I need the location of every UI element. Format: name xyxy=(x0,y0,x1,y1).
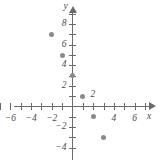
y-tick xyxy=(69,24,76,25)
data-point xyxy=(80,94,85,99)
point-annotation: 2 xyxy=(91,89,96,99)
x-tick-label: −4 xyxy=(20,113,42,123)
y-tick xyxy=(69,137,76,138)
x-tick-label: −6 xyxy=(0,113,21,123)
y-tick xyxy=(69,65,76,66)
data-point xyxy=(60,53,65,58)
y-tick xyxy=(69,34,76,35)
data-point xyxy=(91,114,96,119)
x-axis-label: x xyxy=(147,111,151,121)
data-point xyxy=(101,135,106,140)
y-tick xyxy=(69,148,76,149)
y-tick xyxy=(69,45,76,46)
y-tick xyxy=(69,55,76,56)
y-axis-label: y xyxy=(64,1,68,11)
y-tick-label: −2 xyxy=(45,121,67,131)
x-tick xyxy=(21,103,22,110)
x-tick xyxy=(31,103,32,110)
y-tick xyxy=(69,127,76,128)
y-tick-label: 6 xyxy=(45,39,67,49)
x-tick xyxy=(135,103,136,110)
x-tick xyxy=(83,103,84,110)
x-axis-arrow-icon xyxy=(149,102,156,110)
x-tick xyxy=(10,103,11,110)
x-tick xyxy=(124,103,125,110)
x-tick xyxy=(104,103,105,110)
x-tick xyxy=(114,103,115,110)
x-tick xyxy=(62,103,63,110)
data-point xyxy=(49,32,54,37)
x-tick-label: 4 xyxy=(103,113,125,123)
y-axis-arrow-icon xyxy=(69,6,77,13)
x-tick xyxy=(41,103,42,110)
x-tick xyxy=(0,103,1,110)
y-tick xyxy=(69,117,76,118)
x-tick xyxy=(145,103,146,110)
x-tick xyxy=(93,103,94,110)
y-tick-label: 4 xyxy=(45,59,67,69)
y-tick-label: −4 xyxy=(45,142,67,152)
y-tick-label: 8 xyxy=(45,18,67,28)
y-tick xyxy=(69,96,76,97)
y-tick-label: 2 xyxy=(45,80,67,90)
x-tick-label: 6 xyxy=(124,113,146,123)
coordinate-plane-figure: −6−4−246 8642−2−4 x y 2 xyxy=(0,0,165,168)
data-point xyxy=(70,73,75,78)
y-tick xyxy=(69,86,76,87)
y-tick xyxy=(69,14,76,15)
x-tick xyxy=(52,103,53,110)
